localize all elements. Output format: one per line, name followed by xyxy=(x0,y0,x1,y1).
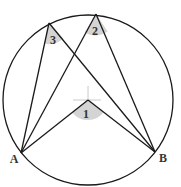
angle-1-label: 1 xyxy=(83,107,89,121)
angle-2-label: 2 xyxy=(92,24,98,38)
segment-P3-B xyxy=(49,23,155,152)
point-B-label: B xyxy=(159,151,167,165)
circle-angles-diagram: 1 2 3 A B xyxy=(0,0,181,187)
diagram-canvas: 1 2 3 A B xyxy=(0,0,181,187)
segment-P2-B xyxy=(96,14,155,152)
segment-O-B xyxy=(88,100,155,152)
point-A-label: A xyxy=(10,152,19,166)
angle-3-label: 3 xyxy=(50,33,56,47)
